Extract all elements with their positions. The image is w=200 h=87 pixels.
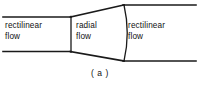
figure-caption: ( a ) [0, 68, 200, 78]
flow-geometry-figure: rectilinear flow radial flow rectilinear… [0, 0, 200, 87]
radial-exit-arc [124, 5, 127, 61]
radial-bottom-wall [70, 52, 124, 62]
radial-top-wall [70, 5, 124, 17]
zone-label-right-rectilinear: rectilinear flow [128, 21, 194, 42]
zone-label-left-rectilinear: rectilinear flow [5, 21, 69, 42]
zone-label-radial: radial flow [76, 21, 120, 42]
